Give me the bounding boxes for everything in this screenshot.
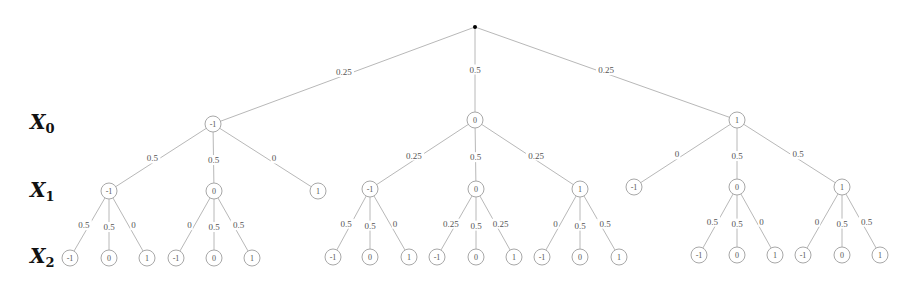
edge-probability-label: 0 [675, 149, 680, 159]
edge-probability-label: 0 [393, 219, 398, 229]
edge-probability-label: 0.5 [470, 152, 482, 162]
node-value: -1 [539, 253, 546, 262]
tree-node: 0 [729, 179, 745, 195]
edge-probability-label: 0.5 [208, 155, 220, 165]
tree-node: 0 [834, 247, 850, 263]
node-value: 0 [368, 253, 372, 262]
root-node [473, 25, 477, 29]
edge-probability-label: 0.5 [470, 221, 482, 231]
tree-node: 1 [767, 247, 783, 263]
node-value: 1 [316, 187, 320, 196]
edge [116, 128, 207, 186]
edge-probability-label: 0 [131, 220, 136, 230]
tree-node: 1 [611, 249, 627, 265]
node-value: -1 [106, 187, 113, 196]
tree-node: 0 [362, 249, 378, 265]
node-value: 0 [735, 251, 739, 260]
node-value: 1 [773, 251, 777, 260]
tree-node: -1 [362, 181, 378, 197]
edge-probability-label: 0.25 [493, 219, 509, 229]
edge-probability-label: 0 [553, 219, 558, 229]
tree-node: -1 [101, 183, 117, 199]
tree-node: -1 [626, 179, 642, 195]
node-value: 0 [735, 183, 739, 192]
edge-probability-label: 0.5 [364, 221, 376, 231]
node-value: -1 [67, 254, 74, 263]
tree-node: -1 [205, 116, 221, 132]
edge-probability-label: 0.25 [598, 65, 614, 75]
tree-node: 0 [729, 247, 745, 263]
node-value: 0 [107, 254, 111, 263]
node-value: -1 [367, 185, 374, 194]
edge-probability-label: 0.5 [103, 222, 115, 232]
node-value: 0 [212, 254, 216, 263]
tree-node: 0 [206, 183, 222, 199]
edge-probability-label: 0.5 [599, 219, 611, 229]
node-value: 0 [578, 253, 582, 262]
edge-probability-label: 0.5 [147, 153, 159, 163]
node-value: -1 [696, 251, 703, 260]
edge-probability-label: 0.5 [707, 217, 719, 227]
node-value: 1 [407, 253, 411, 262]
node-value: 0 [840, 251, 844, 260]
tree-node: 1 [872, 247, 888, 263]
edge-probability-label: 0.5 [836, 219, 848, 229]
probability-tree: 0.250.50.250.50.500.250.50.2500.50.50.50… [0, 0, 912, 286]
tree-node: 1 [506, 249, 522, 265]
edge-probability-label: 0.25 [443, 219, 459, 229]
node-value: 0 [474, 253, 478, 262]
edge [113, 198, 143, 251]
edge-probability-label: 0.5 [731, 219, 743, 229]
edge-probability-label: 0.25 [528, 151, 544, 161]
node-value: 0 [474, 185, 478, 194]
node-value: -1 [800, 251, 807, 260]
tree-node: -1 [795, 247, 811, 263]
edge-probability-label: 0 [815, 217, 820, 227]
edge-probability-label: 0.5 [574, 221, 586, 231]
tree-node: 1 [401, 249, 417, 265]
node-value: -1 [173, 254, 180, 263]
node-value: 1 [840, 183, 844, 192]
edge-probability-label: 0 [187, 220, 192, 230]
edge-probability-label: 0.25 [406, 151, 422, 161]
node-value: 0 [473, 116, 477, 125]
edge-probability-label: 0 [272, 153, 277, 163]
edge-probability-label: 0.25 [336, 67, 352, 77]
edge-probability-label: 0.5 [861, 217, 873, 227]
edge [546, 196, 576, 250]
edge [180, 198, 210, 251]
node-value: 1 [145, 254, 149, 263]
tree-node: 0 [101, 250, 117, 266]
node-value: -1 [210, 120, 217, 129]
tree-node: -1 [168, 250, 184, 266]
node-value: 1 [878, 251, 882, 260]
edge [220, 128, 312, 186]
edge [744, 124, 836, 182]
tree-node: -1 [691, 247, 707, 263]
tree-node: 1 [729, 112, 745, 128]
tree-node: -1 [325, 249, 341, 265]
tree-node: -1 [534, 249, 550, 265]
tree-node: -1 [62, 250, 78, 266]
edge-probability-label: 0.5 [731, 151, 743, 161]
edge [807, 194, 838, 248]
node-value: -1 [631, 183, 638, 192]
node-value: 1 [735, 116, 739, 125]
tree-node: 1 [139, 250, 155, 266]
edge [641, 124, 731, 182]
node-value: 0 [212, 187, 216, 196]
edge-probability-label: 0.5 [792, 149, 804, 159]
edge [741, 194, 771, 248]
edge [374, 196, 405, 250]
tree-node: 0 [468, 249, 484, 265]
tree-node: 1 [310, 183, 326, 199]
tree-node: 0 [206, 250, 222, 266]
node-value: -1 [330, 253, 337, 262]
node-value: 1 [250, 254, 254, 263]
node-value: 1 [578, 185, 582, 194]
tree-node: 0 [572, 249, 588, 265]
edge-probability-label: 0.5 [233, 220, 245, 230]
edge-probability-label: 0.5 [208, 222, 220, 232]
edge-probability-label: 0.5 [340, 219, 352, 229]
tree-node: 1 [834, 179, 850, 195]
